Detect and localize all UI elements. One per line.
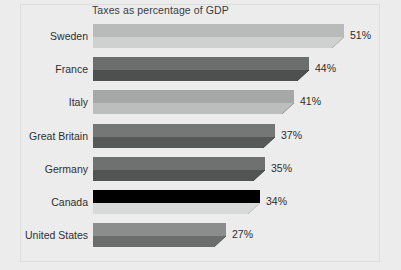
bar-row: Great Britain37% — [0, 122, 401, 152]
bar-category-label: United States — [0, 229, 88, 241]
bar-top-face — [93, 223, 226, 236]
bar-category-label: France — [0, 63, 88, 75]
bar-value-label: 27% — [232, 228, 253, 240]
bar-row: Canada34% — [0, 188, 401, 218]
bar-front-face — [93, 203, 260, 214]
bar-shape — [93, 90, 294, 116]
bar-category-label: Germany — [0, 163, 88, 175]
bar-value-label: 35% — [271, 162, 292, 174]
bar-front-face — [93, 170, 265, 181]
chart-title: Taxes as percentage of GDP — [92, 4, 229, 16]
bar-shape — [93, 190, 260, 216]
bar-top-face — [93, 190, 260, 203]
bar-category-label: Canada — [0, 196, 88, 208]
bar-top-face — [93, 90, 294, 103]
bar-shape — [93, 157, 265, 183]
bar-value-label: 37% — [281, 129, 302, 141]
plot-area: Sweden51%France44%Italy41%Great Britain3… — [0, 22, 401, 262]
bar-category-label: Great Britain — [0, 130, 88, 142]
bar-front-face — [93, 137, 275, 148]
bar-top-face — [93, 124, 275, 137]
bar-top-face — [93, 24, 344, 37]
bar-row: France44% — [0, 55, 401, 85]
bar-category-label: Italy — [0, 96, 88, 108]
bar-top-face — [93, 157, 265, 170]
bar-front-face — [93, 103, 294, 114]
bar-front-face — [93, 70, 309, 81]
bar-value-label: 51% — [350, 29, 371, 41]
bar-row: Germany35% — [0, 155, 401, 185]
bar-front-face — [93, 236, 226, 247]
bar-row: United States27% — [0, 221, 401, 251]
bar-row: Italy41% — [0, 88, 401, 118]
bar-category-label: Sweden — [0, 30, 88, 42]
bar-shape — [93, 223, 226, 249]
bar-shape — [93, 124, 275, 150]
bar-shape — [93, 57, 309, 83]
bar-top-face — [93, 57, 309, 70]
bar-value-label: 41% — [300, 95, 321, 107]
bar-chart: Taxes as percentage of GDP Sweden51%Fran… — [0, 0, 401, 270]
bar-value-label: 44% — [315, 62, 336, 74]
bar-shape — [93, 24, 344, 50]
bar-row: Sweden51% — [0, 22, 401, 52]
bar-front-face — [93, 37, 344, 48]
bar-value-label: 34% — [266, 195, 287, 207]
